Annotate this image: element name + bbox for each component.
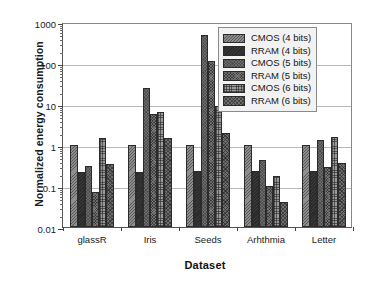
y-tick-minor bbox=[60, 176, 63, 177]
x-category-label: glassR bbox=[77, 234, 106, 245]
y-tick-label: 10 bbox=[45, 101, 56, 112]
x-category-label: Arhthmia bbox=[247, 234, 285, 245]
bar bbox=[164, 138, 171, 227]
legend-swatch bbox=[223, 96, 245, 106]
bar bbox=[266, 186, 273, 227]
bar bbox=[194, 171, 201, 227]
y-tick-minor bbox=[60, 197, 63, 198]
y-tick-minor bbox=[60, 28, 63, 29]
bar bbox=[280, 202, 287, 227]
y-tick-label: 1000 bbox=[35, 19, 56, 30]
x-tick-mark bbox=[121, 227, 122, 231]
y-tick-minor bbox=[60, 81, 63, 82]
y-tick-minor bbox=[60, 71, 63, 72]
y-tick-label: 100 bbox=[40, 60, 56, 71]
y-tick-minor bbox=[60, 40, 63, 41]
bar bbox=[150, 114, 157, 227]
legend-item: RRAM (4 bits) bbox=[223, 45, 311, 58]
bar bbox=[136, 172, 143, 227]
legend-swatch bbox=[223, 34, 245, 44]
legend-swatch bbox=[223, 46, 245, 56]
bar bbox=[259, 160, 266, 227]
x-tick-mark bbox=[237, 227, 238, 231]
bar bbox=[302, 145, 309, 227]
y-tick-minor bbox=[60, 217, 63, 218]
bar bbox=[201, 35, 208, 227]
x-category-label: Letter bbox=[312, 234, 336, 245]
legend-swatch bbox=[223, 59, 245, 69]
bar bbox=[338, 163, 345, 227]
legend-item: CMOS (5 bits) bbox=[223, 57, 311, 70]
legend-swatch bbox=[223, 84, 245, 94]
bar bbox=[252, 171, 259, 227]
y-tick-minor bbox=[60, 45, 63, 46]
y-tick-minor bbox=[60, 118, 63, 119]
y-tick-label: 0.01 bbox=[38, 224, 57, 235]
y-tick-minor bbox=[60, 127, 63, 128]
legend-label: CMOS (6 bits) bbox=[251, 83, 311, 93]
bar bbox=[128, 145, 135, 227]
x-axis-title: Dataset bbox=[55, 259, 355, 271]
y-tick-minor bbox=[60, 200, 63, 201]
y-tick-minor bbox=[60, 86, 63, 87]
chart-legend: CMOS (4 bits)RRAM (4 bits)CMOS (5 bits)R… bbox=[218, 27, 317, 112]
bar bbox=[92, 192, 99, 227]
bar bbox=[273, 176, 280, 227]
bar bbox=[186, 145, 193, 227]
y-tick-minor bbox=[60, 122, 63, 123]
y-tick-minor bbox=[60, 168, 63, 169]
y-tick-minor bbox=[60, 67, 63, 68]
y-tick-minor bbox=[60, 94, 63, 95]
legend-label: RRAM (4 bits) bbox=[251, 46, 311, 56]
y-tick-label: 1 bbox=[51, 142, 56, 153]
x-category-label: Iris bbox=[144, 234, 157, 245]
bar bbox=[85, 166, 92, 227]
x-category-label: Seeds bbox=[195, 234, 222, 245]
y-tick-minor bbox=[60, 153, 63, 154]
bar bbox=[331, 137, 338, 227]
legend-label: RRAM (5 bits) bbox=[251, 71, 311, 81]
y-tick-minor bbox=[60, 115, 63, 116]
y-tick-minor bbox=[60, 156, 63, 157]
y-tick-minor bbox=[60, 108, 63, 109]
y-tick-minor bbox=[60, 135, 63, 136]
legend-item: CMOS (6 bits) bbox=[223, 82, 311, 95]
bar bbox=[215, 106, 222, 227]
chart-figure: Normalized energy consumption 1000100101… bbox=[0, 0, 367, 283]
legend-item: RRAM (6 bits) bbox=[223, 95, 311, 108]
bar bbox=[317, 140, 324, 227]
y-tick-minor bbox=[60, 30, 63, 31]
y-tick-minor bbox=[60, 77, 63, 78]
y-tick-minor bbox=[60, 149, 63, 150]
bar bbox=[106, 164, 113, 227]
legend-swatch bbox=[223, 71, 245, 81]
y-tick-minor bbox=[60, 26, 63, 27]
bar bbox=[244, 145, 251, 227]
y-tick-minor bbox=[60, 36, 63, 37]
y-tick-minor bbox=[60, 151, 63, 152]
x-tick-mark bbox=[179, 227, 180, 231]
y-tick-minor bbox=[60, 190, 63, 191]
y-tick-minor bbox=[60, 204, 63, 205]
y-axis-title: Normalized energy consumption bbox=[33, 19, 45, 229]
y-tick-minor bbox=[60, 69, 63, 70]
x-tick-mark bbox=[353, 227, 354, 231]
legend-item: CMOS (4 bits) bbox=[223, 32, 311, 45]
y-tick-minor bbox=[60, 33, 63, 34]
legend-label: CMOS (4 bits) bbox=[251, 33, 311, 43]
legend-item: RRAM (5 bits) bbox=[223, 70, 311, 83]
y-tick-minor bbox=[60, 192, 63, 193]
bar bbox=[70, 145, 77, 227]
y-tick-minor bbox=[60, 159, 63, 160]
x-tick-mark bbox=[63, 227, 64, 231]
legend-label: CMOS (5 bits) bbox=[251, 58, 311, 68]
bar bbox=[99, 138, 106, 227]
y-tick-minor bbox=[60, 53, 63, 54]
x-tick-mark bbox=[295, 227, 296, 231]
y-tick-minor bbox=[60, 209, 63, 210]
bar bbox=[222, 133, 229, 227]
y-tick-minor bbox=[60, 194, 63, 195]
bar bbox=[143, 88, 150, 227]
bar bbox=[157, 112, 164, 227]
bar bbox=[310, 171, 317, 227]
